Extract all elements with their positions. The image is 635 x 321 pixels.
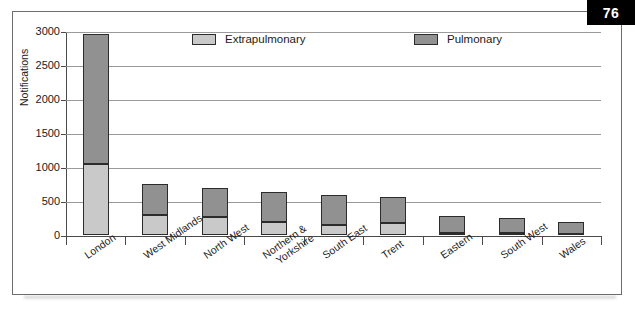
y-tick-mark (61, 202, 66, 203)
bar-segment-extrapulmonary[interactable] (142, 215, 168, 235)
bar-segment-extrapulmonary[interactable] (380, 223, 406, 235)
chart-page: 76 Notifications 05001000150020002500300… (0, 0, 635, 321)
bar-group[interactable] (499, 31, 525, 235)
bar-group[interactable] (261, 31, 287, 235)
x-tick-mark (185, 236, 186, 245)
bar-segment-extrapulmonary[interactable] (321, 225, 347, 235)
y-tick-mark (61, 134, 66, 135)
bar-group[interactable] (83, 31, 109, 235)
bar-group[interactable] (439, 31, 465, 235)
page-number-badge: 76 (587, 0, 635, 25)
bar-segment-pulmonary[interactable] (83, 34, 109, 163)
x-tick-mark (542, 236, 543, 245)
y-tick-mark (61, 100, 66, 101)
bar-group[interactable] (202, 31, 228, 235)
bar-group[interactable] (321, 31, 347, 235)
bar-segment-pulmonary[interactable] (261, 192, 287, 223)
y-axis-title: Notifications (18, 49, 30, 106)
legend-swatch (414, 34, 438, 45)
bar-group[interactable] (142, 31, 168, 235)
x-tick-mark (244, 236, 245, 245)
x-tick-mark (482, 236, 483, 245)
bar-group[interactable] (558, 31, 584, 235)
legend-swatch (192, 34, 216, 45)
x-tick-mark (601, 236, 602, 245)
bar-group[interactable] (380, 31, 406, 235)
x-tick-mark (423, 236, 424, 245)
bar-segment-pulmonary[interactable] (558, 222, 584, 234)
frame-shadow (24, 296, 616, 300)
legend-item[interactable]: Pulmonary (414, 33, 502, 45)
plot-area (66, 32, 601, 235)
bar-segment-pulmonary[interactable] (380, 197, 406, 224)
chart-legend: ExtrapulmonaryPulmonary (192, 33, 512, 51)
x-tick-mark (125, 236, 126, 245)
bar-segment-pulmonary[interactable] (202, 188, 228, 217)
y-tick-mark (61, 168, 66, 169)
bar-segment-pulmonary[interactable] (142, 184, 168, 215)
y-tick-mark (61, 32, 66, 33)
bar-segment-extrapulmonary[interactable] (202, 217, 228, 235)
page-number-text: 76 (603, 5, 620, 21)
y-tick-mark (61, 66, 66, 67)
legend-label: Pulmonary (447, 33, 502, 45)
legend-item[interactable]: Extrapulmonary (192, 33, 306, 45)
x-tick-mark (363, 236, 364, 245)
bar-segment-pulmonary[interactable] (321, 195, 347, 225)
legend-label: Extrapulmonary (225, 33, 306, 45)
x-tick-mark (66, 236, 67, 245)
bar-segment-pulmonary[interactable] (499, 218, 525, 233)
bar-segment-pulmonary[interactable] (439, 216, 465, 233)
bar-segment-extrapulmonary[interactable] (83, 164, 109, 235)
